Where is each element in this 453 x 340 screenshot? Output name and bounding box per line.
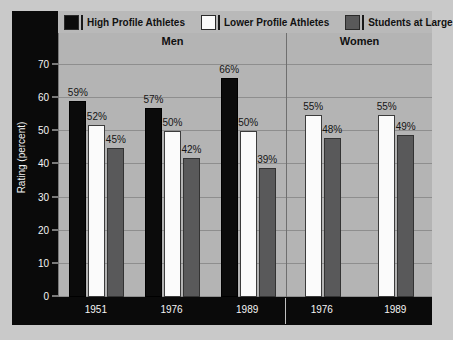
x-tick-label: 1976 <box>160 304 182 315</box>
legend-divider-icon <box>81 15 83 30</box>
bar-value-label: 50% <box>162 117 182 128</box>
chart-legend: High Profile AthletesLower Profile Athle… <box>58 11 432 33</box>
y-tick-label: 0 <box>43 291 49 302</box>
x-axis-panel-divider <box>285 298 286 324</box>
x-tick-label: 1989 <box>384 304 406 315</box>
y-tick-label: 50 <box>38 125 49 136</box>
legend-divider-icon <box>362 15 364 30</box>
bar-value-label: 57% <box>143 94 163 105</box>
x-axis: 19511976198919761989 <box>58 298 432 324</box>
bar-value-label: 59% <box>68 87 88 98</box>
gridline <box>59 97 432 98</box>
y-axis-ticks: 010203040506070 <box>18 33 58 297</box>
bar <box>145 108 162 297</box>
legend-item[interactable]: Lower Profile Athletes <box>201 11 329 33</box>
bar <box>221 78 238 297</box>
bar <box>259 168 276 297</box>
legend-item-label: Students at Large <box>368 17 452 28</box>
y-tick-label: 40 <box>38 158 49 169</box>
legend-item[interactable]: Students at Large <box>345 11 452 33</box>
x-tick-label: 1976 <box>311 304 333 315</box>
bar-value-label: 48% <box>322 124 342 135</box>
bar-value-label: 55% <box>303 101 323 112</box>
bar-value-label: 49% <box>396 121 416 132</box>
legend-swatch-black <box>64 15 79 30</box>
panel-divider <box>286 33 287 297</box>
legend-swatch-gray <box>345 15 360 30</box>
y-tick-label: 70 <box>38 59 49 70</box>
legend-divider-icon <box>218 15 220 30</box>
bar-value-label: 66% <box>219 64 239 75</box>
x-tick-label: 1951 <box>85 304 107 315</box>
bar <box>183 158 200 297</box>
y-tick-label: 60 <box>38 92 49 103</box>
legend-item-label: Lower Profile Athletes <box>224 17 329 28</box>
bar <box>305 115 322 297</box>
bar-value-label: 50% <box>238 117 258 128</box>
bar-value-label: 55% <box>377 101 397 112</box>
y-tick-label: 30 <box>38 191 49 202</box>
legend-swatch-white <box>201 15 216 30</box>
plot-area: Men59%52%45%57%50%42%66%50%39%Women55%48… <box>58 33 432 297</box>
legend-item[interactable]: High Profile Athletes <box>64 11 185 33</box>
bar-value-label: 42% <box>181 144 201 155</box>
bar <box>397 135 414 297</box>
bar <box>164 131 181 297</box>
bar <box>378 115 395 297</box>
bar <box>69 101 86 297</box>
bar <box>240 131 257 297</box>
bar-value-label: 45% <box>106 134 126 145</box>
panel-title: Men <box>162 35 184 47</box>
panel-title: Women <box>340 35 380 47</box>
y-tick-label: 20 <box>38 224 49 235</box>
bar <box>88 125 105 297</box>
bar-value-label: 52% <box>87 111 107 122</box>
bar <box>107 148 124 297</box>
gridline <box>59 64 432 65</box>
y-tick-label: 10 <box>38 257 49 268</box>
legend-item-label: High Profile Athletes <box>87 17 185 28</box>
x-tick-label: 1989 <box>236 304 258 315</box>
bar <box>324 138 341 297</box>
bar-value-label: 39% <box>257 154 277 165</box>
